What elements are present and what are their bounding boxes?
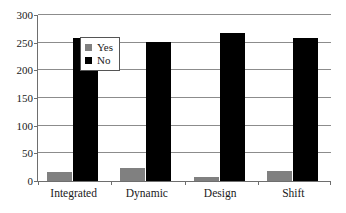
bar-chart: 050100150200250300 Yes No IntegratedDyna… [0,0,346,213]
bar-yes [120,168,145,181]
x-tick-mark [330,181,331,185]
bar-no [293,38,318,181]
y-tick-label: 300 [17,10,34,21]
x-tick-mark [258,181,259,185]
y-tick-label: 250 [17,37,34,48]
y-tick-label: 50 [22,148,33,159]
x-tick-mark [38,181,39,185]
x-axis-label: Integrated [50,188,97,200]
legend-swatch-no-icon [85,57,92,64]
legend-swatch-yes-icon [85,44,92,51]
x-tick-mark [185,181,186,185]
bar-yes [267,171,292,181]
bar-no [220,33,245,181]
bar-no [146,42,171,181]
plot-area: 050100150200250300 Yes No [37,16,330,182]
y-tick-label: 0 [28,176,34,187]
bar-yes [194,177,219,181]
legend-item-yes: Yes [85,41,113,54]
legend-label-no: No [97,55,110,66]
x-axis-label: Shift [282,188,304,200]
y-tick-label: 100 [17,120,34,131]
x-axis-label: Design [204,188,237,200]
y-tick-label: 200 [17,65,34,76]
legend-label-yes: Yes [97,42,113,53]
legend-item-no: No [85,54,113,67]
x-tick-mark [111,181,112,185]
x-axis-label: Dynamic [126,188,168,200]
y-tick-label: 150 [17,93,34,104]
bar-yes [47,172,72,181]
legend: Yes No [80,37,120,71]
